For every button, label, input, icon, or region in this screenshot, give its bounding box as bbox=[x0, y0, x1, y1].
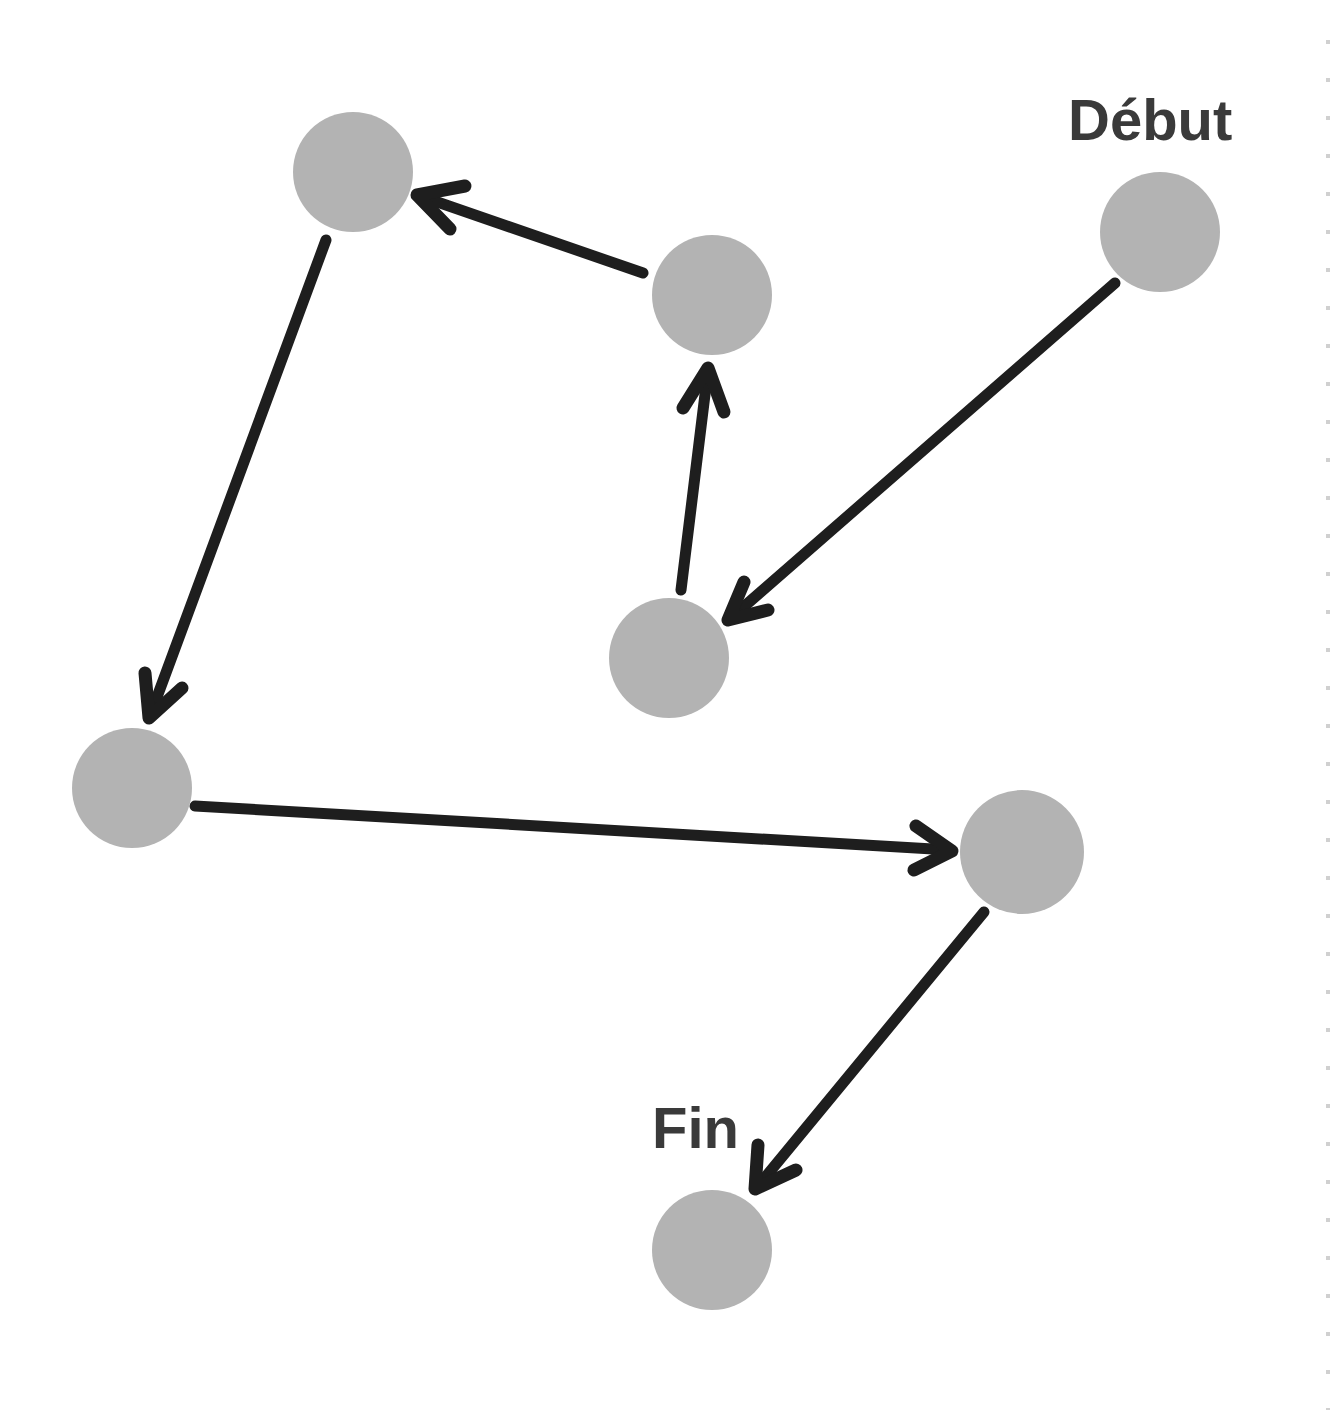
edge-n1-to-n5 bbox=[145, 240, 326, 718]
edge-n6-to-end bbox=[755, 912, 984, 1189]
node-1 bbox=[293, 112, 413, 232]
edge-start-to-n4 bbox=[728, 283, 1115, 620]
node-2 bbox=[652, 235, 772, 355]
flow-diagram: Début Fin bbox=[0, 0, 1334, 1420]
end-label: Fin bbox=[652, 1095, 739, 1160]
node-4 bbox=[609, 598, 729, 718]
edge-n5-to-n6 bbox=[195, 806, 952, 870]
start-label: Début bbox=[1068, 87, 1232, 152]
edge-n2-to-n1 bbox=[417, 186, 643, 273]
node-start bbox=[1100, 172, 1220, 292]
node-end bbox=[652, 1190, 772, 1310]
node-5 bbox=[72, 728, 192, 848]
node-6 bbox=[960, 790, 1084, 914]
edge-n4-to-n2 bbox=[681, 368, 724, 590]
